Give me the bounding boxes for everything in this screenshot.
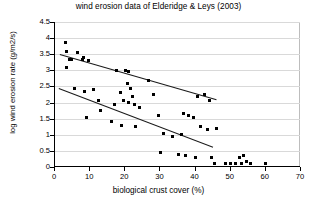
data-point <box>177 153 180 156</box>
x-tick <box>54 167 55 171</box>
data-point <box>264 162 267 165</box>
y-tick-label: 2 <box>2 99 50 107</box>
y-tick-label: 1 <box>2 131 50 139</box>
plot-area <box>54 22 300 167</box>
data-point <box>64 41 67 44</box>
x-tick-label: 0 <box>39 173 69 181</box>
data-point <box>203 93 206 96</box>
gridline <box>55 22 300 23</box>
data-point <box>184 154 187 157</box>
data-point <box>76 51 79 54</box>
data-point <box>208 99 211 102</box>
data-point <box>234 162 237 165</box>
data-point <box>115 69 118 72</box>
y-tick-label: 3 <box>2 66 50 74</box>
data-point <box>83 90 86 93</box>
data-point <box>171 135 174 138</box>
data-point <box>213 162 216 165</box>
data-point <box>159 151 162 154</box>
data-point <box>215 127 218 130</box>
y-tick-label: 0.5 <box>2 147 50 155</box>
x-axis-title: biological crust cover (%) <box>0 186 317 195</box>
x-tick-label: 30 <box>144 173 174 181</box>
gridline <box>55 103 300 104</box>
data-point <box>73 87 76 90</box>
data-point <box>120 124 123 127</box>
data-point <box>65 66 68 69</box>
x-tick <box>124 167 125 171</box>
data-point <box>210 156 213 159</box>
x-tick <box>195 167 196 171</box>
x-tick <box>300 167 301 171</box>
data-point <box>133 103 136 106</box>
gridline <box>55 38 300 39</box>
data-point <box>99 109 102 112</box>
data-point <box>249 162 252 165</box>
data-point <box>187 114 190 117</box>
data-point <box>65 50 68 53</box>
data-point <box>162 132 165 135</box>
y-tick-label: 0 <box>2 163 50 171</box>
gridline <box>55 119 300 120</box>
data-point <box>152 93 155 96</box>
data-point <box>199 125 202 128</box>
data-point <box>242 154 245 157</box>
data-point <box>127 101 130 104</box>
data-point <box>85 116 88 119</box>
data-point <box>119 91 122 94</box>
data-point <box>131 95 134 98</box>
data-point <box>229 162 232 165</box>
x-tick-label: 40 <box>180 173 210 181</box>
data-point <box>192 116 195 119</box>
data-point <box>138 106 141 109</box>
data-point <box>157 114 160 117</box>
data-point <box>70 58 73 61</box>
y-tick-label: 1.5 <box>2 115 50 123</box>
gridline <box>55 135 300 136</box>
data-point <box>92 88 95 91</box>
data-point <box>82 56 85 59</box>
x-tick-label: 10 <box>74 173 104 181</box>
x-tick-label: 50 <box>215 173 245 181</box>
data-point <box>87 59 90 62</box>
gridline <box>55 54 300 55</box>
x-tick <box>89 167 90 171</box>
data-point <box>147 79 150 82</box>
y-tick-label: 2.5 <box>2 82 50 90</box>
data-point <box>206 128 209 131</box>
x-tick <box>230 167 231 171</box>
data-point <box>224 162 227 165</box>
data-point <box>196 95 199 98</box>
data-point <box>126 82 129 85</box>
data-point <box>97 99 100 102</box>
data-point <box>129 87 132 90</box>
data-point <box>182 112 185 115</box>
y-tick-label: 4.5 <box>2 18 50 26</box>
chart-figure: wind erosion data of Elderidge & Leys (2… <box>0 0 317 203</box>
plot-right-border <box>299 22 300 166</box>
data-point <box>134 125 137 128</box>
data-point <box>194 156 197 159</box>
x-tick-label: 60 <box>250 173 280 181</box>
data-point <box>127 70 130 73</box>
x-tick <box>159 167 160 171</box>
x-tick-label: 20 <box>109 173 139 181</box>
data-point <box>113 103 116 106</box>
gridline <box>55 70 300 71</box>
data-point <box>180 133 183 136</box>
y-tick-label: 3.5 <box>2 50 50 58</box>
x-tick <box>265 167 266 171</box>
data-point <box>110 120 113 123</box>
x-tick-label: 70 <box>285 173 315 181</box>
data-point <box>240 162 243 165</box>
y-tick-label: 4 <box>2 34 50 42</box>
data-point <box>122 99 125 102</box>
